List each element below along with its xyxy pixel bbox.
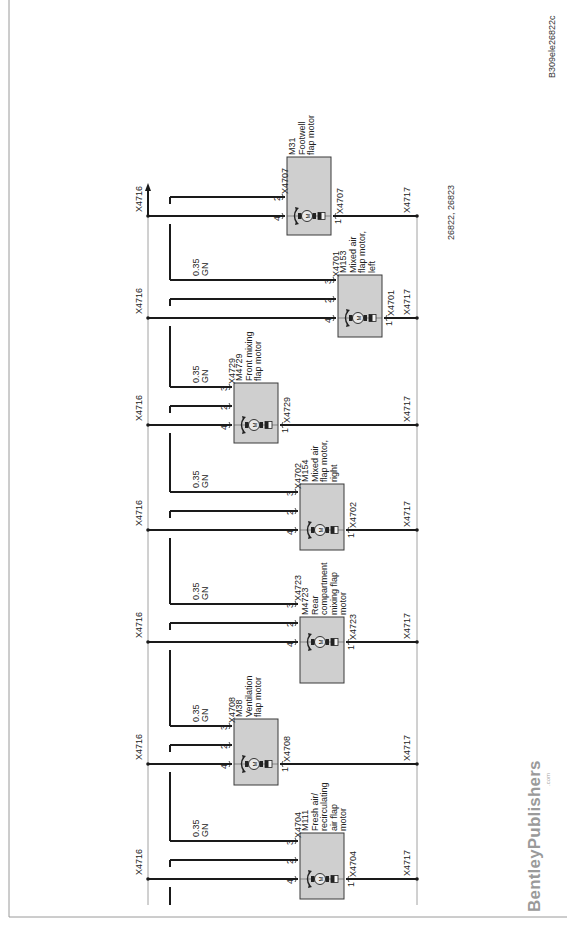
motor-name-m4723: M4723 Rear compartment mixing flap motor xyxy=(301,562,349,615)
junction-dot xyxy=(415,316,419,320)
junction-dot xyxy=(415,214,419,218)
motor-m-glyph: M xyxy=(318,640,324,645)
connector-label-right: X4701 xyxy=(387,290,396,316)
publisher-logo-suffix: .com xyxy=(545,773,551,786)
motor-name-m153: M153 Mixed air flap motor, left xyxy=(339,231,377,273)
pin-number-3: 3 xyxy=(220,386,229,391)
junction-dot xyxy=(146,528,150,532)
motor-name-m38: M38 Ventilation flap motor xyxy=(235,675,264,717)
arrow-up-icon xyxy=(145,183,151,191)
motor-box-m153 xyxy=(338,275,382,337)
motor-m-glyph: M xyxy=(305,214,311,219)
motor-brush-icon xyxy=(326,639,330,645)
motor-box-m154 xyxy=(300,484,344,550)
bus-label-x4717: X4717 xyxy=(403,850,412,876)
motor-m-glyph: M xyxy=(252,762,258,767)
junction-dot xyxy=(146,877,150,881)
pin-number-4: 4 xyxy=(220,425,229,430)
pin-number-4: 4 xyxy=(324,318,333,323)
bus-label-x4716: X4716 xyxy=(135,734,144,760)
motor-brush-icon xyxy=(245,761,249,767)
pin-number-3: 3 xyxy=(286,603,295,608)
connector-label-right: X4702 xyxy=(349,502,358,528)
document-id-watermark: B309ele26822c xyxy=(547,15,557,78)
motor-name-m111: M111 Fresh air/ recirculating air flap m… xyxy=(301,782,349,831)
publisher-logo: BentleyPublishers xyxy=(525,760,545,912)
connector-label-right: X4708 xyxy=(283,736,292,762)
connector-label-right: X4723 xyxy=(349,614,358,640)
motor-name-m154: M154 Mixed air flap motor, right xyxy=(301,440,339,482)
position-sensor-fill xyxy=(369,315,373,322)
motor-m-glyph: M xyxy=(356,316,362,321)
bus-label-x4717: X4717 xyxy=(403,289,412,315)
wire-spec-label: 0.35 GN xyxy=(192,365,210,383)
bus-label-x4717: X4717 xyxy=(403,396,412,422)
wire-spec-label: 0.35 GN xyxy=(192,582,210,600)
position-sensor-fill xyxy=(265,761,269,768)
bus-label-x4717: X4717 xyxy=(403,735,412,761)
position-sensor-fill xyxy=(331,639,335,646)
motor-m-glyph: M xyxy=(252,423,258,428)
junction-dot xyxy=(146,640,150,644)
motor-box-m38 xyxy=(234,719,278,785)
bus-label-x4716: X4716 xyxy=(135,612,144,638)
position-sensor-fill xyxy=(318,213,322,220)
bus-label-x4716: X4716 xyxy=(135,395,144,421)
pin-number-4: 4 xyxy=(286,879,295,884)
junction-dot xyxy=(415,423,419,427)
motor-brush-icon xyxy=(260,422,264,428)
pin-number-1: 1 xyxy=(347,645,356,650)
motor-brush-icon xyxy=(245,422,249,428)
pin-number-3: 3 xyxy=(286,491,295,496)
pin-number-3: 3 xyxy=(324,279,333,284)
pin-number-1: 1 xyxy=(385,321,394,326)
motor-brush-icon xyxy=(364,315,368,321)
motor-brush-icon xyxy=(311,639,315,645)
reference-numbers: 26822, 26823 xyxy=(446,185,456,240)
junction-dot xyxy=(146,316,150,320)
motor-box-m4723 xyxy=(300,617,344,683)
pin-number-2: 2 xyxy=(286,859,295,864)
motor-brush-icon xyxy=(311,876,315,882)
pin-number-2: 2 xyxy=(220,405,229,410)
bus-label-x4717: X4717 xyxy=(403,613,412,639)
motor-name-m31: M31 Footwell flap motor xyxy=(288,115,317,155)
wire-spec-label: 0.35 GN xyxy=(192,819,210,837)
bus-label-x4716: X4716 xyxy=(135,500,144,526)
wiring-diagram: MMMMMMM xyxy=(0,0,567,931)
position-sensor-fill xyxy=(265,422,269,429)
motor-brush-icon xyxy=(349,315,353,321)
motor-m-glyph: M xyxy=(318,528,324,533)
pin-number-4: 4 xyxy=(220,764,229,769)
motor-brush-icon xyxy=(313,213,317,219)
motor-m-glyph: M xyxy=(318,877,324,882)
pin-number-1: 1 xyxy=(347,533,356,538)
pin-number-2: 2 xyxy=(220,744,229,749)
motor-brush-icon xyxy=(326,527,330,533)
connector-label-right: X4729 xyxy=(283,397,292,423)
pin-number-1: 1 xyxy=(281,428,290,433)
motor-box-m31 xyxy=(287,157,331,235)
bus-label-x4716: X4716 xyxy=(135,186,144,212)
pin-number-2: 2 xyxy=(286,622,295,627)
junction-dot xyxy=(146,762,150,766)
pin-number-1: 1 xyxy=(347,882,356,887)
wire-spec-label: 0.35 GN xyxy=(192,258,210,276)
junction-dot xyxy=(415,528,419,532)
wire-spec-label: 0.35 GN xyxy=(192,704,210,722)
motor-brush-icon xyxy=(260,761,264,767)
motor-brush-icon xyxy=(311,527,315,533)
pin-number-3: 3 xyxy=(220,725,229,730)
bus-label-x4716: X4716 xyxy=(135,288,144,314)
junction-dot xyxy=(415,877,419,881)
bus-label-x4717: X4717 xyxy=(403,187,412,213)
bus-label-x4716: X4716 xyxy=(135,849,144,875)
pin-number-1: 1 xyxy=(334,219,343,224)
pin-number-2: 2 xyxy=(273,196,282,201)
motor-box-m111 xyxy=(300,833,344,899)
position-sensor-fill xyxy=(331,876,335,883)
motor-name-m4729: M4729 Front mixing flap motor xyxy=(235,331,264,381)
connector-label: X4707 xyxy=(281,168,290,194)
pin-number-1: 1 xyxy=(281,767,290,772)
position-sensor-fill xyxy=(331,527,335,534)
